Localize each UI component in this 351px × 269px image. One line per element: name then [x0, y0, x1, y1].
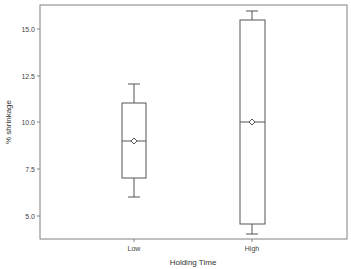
- y-tick-label: 15.0: [21, 26, 35, 33]
- y-tick-label: 7.5: [25, 166, 35, 173]
- x-axis: Low High: [128, 239, 260, 253]
- box-plot: 5.0 7.5 10.0 12.5 15.0 % shrinkage Low H…: [0, 0, 351, 269]
- y-axis: 5.0 7.5 10.0 12.5 15.0: [21, 26, 40, 220]
- y-tick-label: 10.0: [21, 119, 35, 126]
- y-axis-label: % shrinkage: [4, 99, 13, 144]
- mean-diamond-icon: [131, 138, 137, 144]
- box-high: [240, 11, 265, 234]
- plot-frame: [40, 5, 347, 239]
- x-tick-label-high: High: [245, 245, 260, 253]
- y-tick-label: 12.5: [21, 73, 35, 80]
- x-axis-label: Holding Time: [170, 258, 217, 267]
- y-tick-label: 5.0: [25, 213, 35, 220]
- mean-diamond-icon: [249, 119, 255, 125]
- x-tick-label-low: Low: [128, 245, 142, 252]
- box-low: [122, 84, 146, 197]
